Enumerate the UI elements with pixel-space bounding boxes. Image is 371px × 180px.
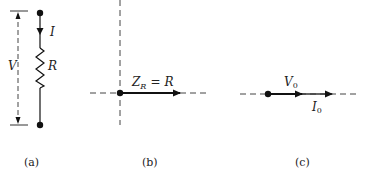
caption-b: (b) <box>142 156 158 169</box>
origin-dot <box>265 91 271 97</box>
impedance-label: ZR=R <box>131 75 173 91</box>
voltage-subscript: 0 <box>293 81 298 90</box>
voltage-arrow-down-icon <box>16 117 21 124</box>
resistor-zigzag <box>36 48 44 88</box>
impedance-value: R <box>163 75 173 89</box>
impedance-subscript: R <box>139 82 146 91</box>
panel-b: ZR=R (b) <box>90 0 208 169</box>
equals-sign: = <box>150 75 160 89</box>
current-phasor-label: I0 <box>311 100 322 115</box>
bottom-terminal <box>37 122 43 128</box>
resistance-label: R <box>47 59 57 73</box>
caption-a: (a) <box>24 156 39 169</box>
current-subscript: 0 <box>317 106 322 115</box>
origin-dot <box>117 90 123 96</box>
current-label: I <box>49 25 55 39</box>
voltage-label: V <box>8 59 18 73</box>
voltage-arrow-up-icon <box>16 12 21 19</box>
panel-a: I V R (a) <box>8 10 57 169</box>
voltage-phasor-label: V0 <box>284 75 298 90</box>
current-arrow-icon <box>37 28 44 35</box>
panel-c: V0 I0 (c) <box>240 75 360 169</box>
figure-canvas: I V R (a) ZR=R (b) V0 I0 (c) <box>0 0 371 180</box>
caption-c: (c) <box>295 156 310 169</box>
